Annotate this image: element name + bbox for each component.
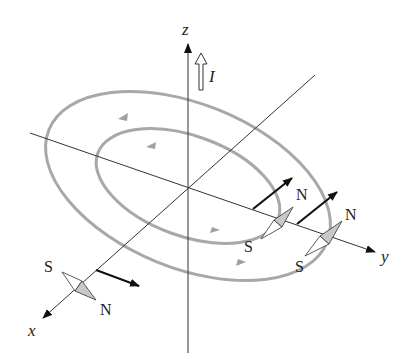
compass-x-south-label: S [44, 258, 53, 275]
current-label: I [208, 67, 216, 86]
inner-ring-arrow-icon [210, 227, 220, 233]
compass-x-north-label: N [100, 301, 112, 318]
compass-outer-north-label: N [345, 206, 357, 223]
y-axis-label: y [379, 247, 389, 266]
x-axis [43, 75, 315, 318]
outer-ring-arrow-icon [118, 113, 128, 121]
outer-ring-arrow-icon [236, 259, 246, 266]
compass-outer-south-label: S [295, 258, 304, 275]
x-axis-label: x [27, 321, 36, 340]
compass-inner-north-label: N [296, 186, 308, 203]
field-vector-inner-y [253, 178, 292, 209]
field-vector-x [96, 270, 139, 286]
magnetic-field-diagram: z y x I N S N S S N [0, 0, 417, 359]
compass-inner-south-label: S [244, 238, 253, 255]
inner-ring-arrow-icon [146, 142, 156, 149]
z-axis-label: z [181, 20, 189, 39]
current-arrow-icon [195, 53, 207, 90]
compass-inner-y-axis [261, 207, 293, 239]
